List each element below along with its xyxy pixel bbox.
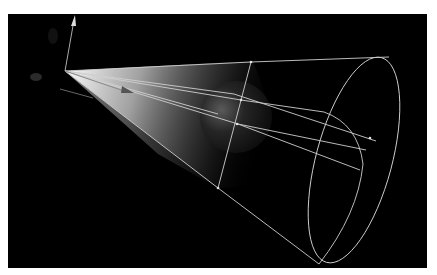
sphere: [200, 81, 272, 153]
light-helper-blob: [30, 73, 42, 81]
up-axis-line: [65, 20, 74, 71]
spotlight-scene: [8, 14, 427, 268]
3d-viewport[interactable]: [8, 14, 427, 268]
up-axis-arrow-icon: [71, 15, 76, 26]
